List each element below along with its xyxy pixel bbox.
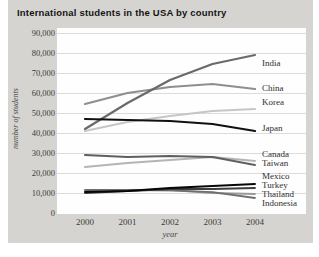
y-tick-label: 70,000	[15, 68, 55, 78]
y-tick-label: 30,000	[15, 148, 55, 158]
line-china	[85, 84, 255, 104]
series-label-japan: Japan	[262, 123, 312, 133]
x-tick-label: 2000	[68, 217, 102, 227]
y-tick-label: 40,000	[15, 128, 55, 138]
series-label-indonesia: Indonesia	[262, 198, 312, 208]
x-tick-label: 2001	[111, 217, 145, 227]
y-tick-label: 0	[15, 208, 55, 218]
x-tick-label: 2002	[153, 217, 187, 227]
y-tick-label: 20,000	[15, 168, 55, 178]
chart-figure: International students in the USA by cou…	[0, 0, 319, 257]
x-tick-label: 2004	[238, 217, 272, 227]
line-india	[85, 55, 255, 129]
chart-title: International students in the USA by cou…	[17, 7, 307, 18]
series-label-india: India	[262, 58, 312, 68]
series-label-korea: Korea	[262, 97, 312, 107]
x-tick-label: 2003	[196, 217, 230, 227]
y-tick-label: 80,000	[15, 48, 55, 58]
y-tick-label: 10,000	[15, 188, 55, 198]
series-label-taiwan: Taiwan	[262, 158, 312, 168]
series-label-china: China	[262, 83, 312, 93]
y-tick-label: 60,000	[15, 88, 55, 98]
x-axis-title: year	[153, 229, 187, 239]
y-tick-label: 50,000	[15, 108, 55, 118]
y-tick-label: 90,000	[15, 28, 55, 38]
line-canada	[85, 157, 255, 167]
